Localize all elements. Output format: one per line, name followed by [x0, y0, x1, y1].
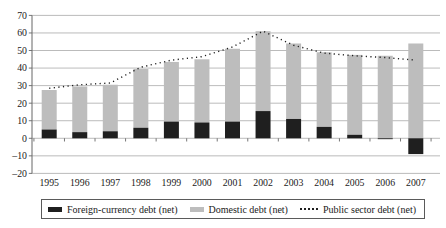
bar-foreign-currency-debt	[408, 138, 423, 154]
bar-foreign-currency-debt	[286, 119, 301, 138]
bar-domestic-debt	[164, 62, 179, 122]
y-tick-label: 60	[17, 27, 27, 38]
x-tick-label: 2000	[192, 177, 212, 188]
y-tick-label: 10	[17, 115, 27, 126]
bar-foreign-currency-debt	[103, 131, 118, 138]
bar-domestic-debt	[194, 59, 209, 122]
x-tick-label: 1996	[70, 177, 90, 188]
bar-domestic-debt	[72, 87, 87, 133]
x-tick-label: 1998	[131, 177, 151, 188]
x-tick-label: 1995	[39, 177, 59, 188]
bar-foreign-currency-debt	[256, 111, 271, 138]
bar-foreign-currency-debt	[72, 132, 87, 138]
bar-domestic-debt	[408, 43, 423, 138]
bar-domestic-debt	[225, 49, 240, 122]
bar-domestic-debt	[378, 56, 393, 139]
x-tick-label: 2006	[375, 177, 395, 188]
bar-foreign-currency-debt	[225, 122, 240, 139]
chart-legend: Foreign-currency debt (net) Domestic deb…	[41, 199, 425, 219]
y-tick-label: 70	[17, 10, 27, 21]
x-tick-label: 1999	[162, 177, 182, 188]
debt-chart: –20–100102030405060701995199619971998199…	[0, 0, 446, 196]
legend-label-public-sector: Public sector debt (net)	[323, 204, 416, 215]
bar-foreign-currency-debt	[194, 122, 209, 138]
x-tick-label: 2001	[223, 177, 243, 188]
bar-domestic-debt	[317, 52, 332, 127]
bar-domestic-debt	[42, 90, 57, 130]
y-tick-label: 40	[17, 62, 27, 73]
x-tick-label: 2003	[284, 177, 304, 188]
bar-foreign-currency-debt	[133, 128, 148, 139]
foreign-currency-swatch	[48, 207, 62, 212]
bar-foreign-currency-debt	[42, 130, 57, 139]
y-tick-label: 0	[22, 133, 27, 144]
bar-foreign-currency-debt	[164, 122, 179, 139]
domestic-swatch	[190, 207, 204, 212]
y-tick-label: 50	[17, 45, 27, 56]
bar-foreign-currency-debt	[378, 138, 393, 139]
x-tick-label: 2005	[345, 177, 365, 188]
y-tick-label: 30	[17, 80, 27, 91]
y-tick-label: 20	[17, 98, 27, 109]
legend-item-public-sector: Public sector debt (net)	[300, 204, 416, 215]
legend-item-foreign-currency: Foreign-currency debt (net)	[48, 204, 178, 215]
public-sector-line-swatch	[300, 208, 318, 210]
bar-foreign-currency-debt	[347, 135, 362, 139]
bar-domestic-debt	[103, 85, 118, 132]
legend-label-foreign-currency: Foreign-currency debt (net)	[67, 204, 178, 215]
bar-domestic-debt	[256, 31, 271, 111]
y-tick-label: –20	[11, 168, 27, 179]
bar-domestic-debt	[286, 43, 301, 118]
y-tick-label: –10	[11, 150, 27, 161]
x-tick-label: 2007	[406, 177, 426, 188]
x-tick-label: 2004	[314, 177, 334, 188]
bar-foreign-currency-debt	[317, 127, 332, 138]
legend-item-domestic: Domestic debt (net)	[190, 204, 288, 215]
legend-label-domestic: Domestic debt (net)	[209, 204, 288, 215]
bar-domestic-debt	[133, 69, 148, 128]
x-tick-label: 1997	[101, 177, 121, 188]
debt-chart-figure: –20–100102030405060701995199619971998199…	[0, 0, 446, 228]
x-tick-label: 2002	[253, 177, 273, 188]
bar-domestic-debt	[347, 55, 362, 135]
